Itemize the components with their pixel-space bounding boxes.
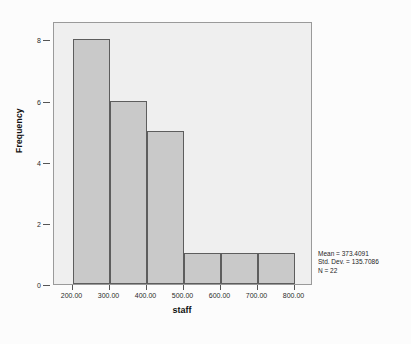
x-tick-mark <box>183 285 184 290</box>
x-tick-mark <box>146 285 147 290</box>
y-tick-mark <box>43 40 50 41</box>
stat-std-dev: Std. Dev. = 135.7086 <box>318 258 379 266</box>
y-tick-mark <box>43 163 50 164</box>
x-axis: staff 200.00300.00400.00500.00600.00700.… <box>0 285 411 344</box>
x-tick-label: 700.00 <box>246 292 267 299</box>
stat-mean: Mean = 373.4091 <box>318 250 379 258</box>
histogram-bar <box>147 131 184 284</box>
plot-area <box>53 22 312 285</box>
x-tick-mark <box>72 285 73 290</box>
x-tick-mark <box>109 285 110 290</box>
x-tick-label: 300.00 <box>98 292 119 299</box>
histogram-bar <box>221 253 258 284</box>
x-tick-label: 800.00 <box>283 292 304 299</box>
histogram-bar <box>110 101 147 284</box>
x-tick-mark <box>220 285 221 290</box>
x-axis-title: staff <box>172 305 191 315</box>
x-tick-mark <box>257 285 258 290</box>
y-tick-mark <box>43 102 50 103</box>
x-tick-label: 200.00 <box>61 292 82 299</box>
histogram-bar <box>73 39 110 284</box>
histogram-figure: Frequency 02468 staff 200.00300.00400.00… <box>0 0 411 344</box>
statistics-annotation: Mean = 373.4091 Std. Dev. = 135.7086 N =… <box>318 250 379 275</box>
histogram-bar <box>184 253 221 284</box>
y-tick-label: 2 <box>37 220 41 227</box>
y-tick-mark <box>43 224 50 225</box>
y-axis-title: Frequency <box>14 108 24 153</box>
x-tick-label: 400.00 <box>135 292 156 299</box>
x-tick-label: 600.00 <box>209 292 230 299</box>
y-tick-label: 4 <box>37 159 41 166</box>
x-tick-mark <box>294 285 295 290</box>
histogram-bar <box>258 253 295 284</box>
bars-layer <box>54 23 311 284</box>
stat-n: N = 22 <box>318 267 379 275</box>
y-tick-label: 8 <box>37 37 41 44</box>
x-tick-label: 500.00 <box>172 292 193 299</box>
y-tick-label: 6 <box>37 98 41 105</box>
